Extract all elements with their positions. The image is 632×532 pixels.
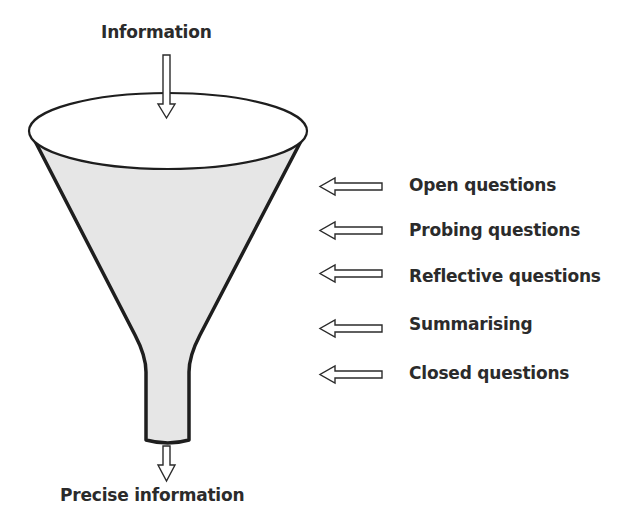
- left-arrow-icon: [320, 178, 382, 195]
- input-label: Information: [101, 22, 212, 42]
- stage-arrows: [320, 178, 382, 383]
- left-arrow-icon: [320, 366, 382, 383]
- output-arrow-icon: [158, 446, 175, 481]
- input-arrow-icon: [158, 55, 175, 118]
- funnel-body: [36, 143, 300, 443]
- questioning-funnel-diagram: Information Precise information Open que…: [0, 0, 632, 532]
- left-arrow-icon: [320, 320, 382, 337]
- output-label: Precise information: [60, 485, 244, 505]
- left-arrow-icon: [320, 265, 382, 282]
- stage-label-reflective: Reflective questions: [409, 266, 601, 286]
- stage-label-open: Open questions: [409, 175, 556, 195]
- stage-label-closed: Closed questions: [409, 363, 569, 383]
- left-arrow-icon: [320, 222, 382, 239]
- stage-label-summarising: Summarising: [409, 314, 532, 334]
- stage-label-probing: Probing questions: [409, 220, 580, 240]
